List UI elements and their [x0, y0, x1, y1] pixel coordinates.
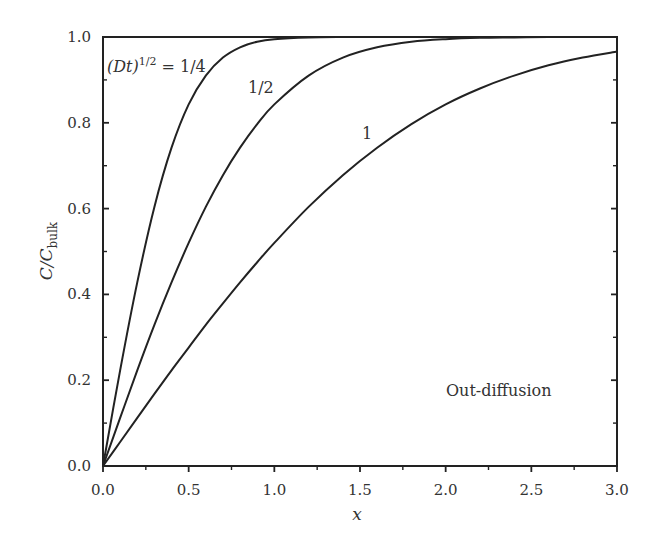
- out-diffusion-label: Out-diffusion: [446, 381, 552, 400]
- curve-label-one: 1: [362, 124, 372, 143]
- y-tick-label: 0.8: [67, 114, 91, 132]
- y-tick-label: 0.6: [67, 200, 91, 218]
- x-axis-label: x: [352, 504, 362, 524]
- curve-quarter: [103, 37, 617, 466]
- y-tick-label: 0.4: [67, 285, 91, 303]
- data-curves: [103, 37, 617, 466]
- axis-ticks: [103, 37, 617, 472]
- x-tick-label: 2.0: [434, 481, 458, 499]
- x-tick-label: 0.0: [91, 481, 115, 499]
- diffusion-profile-chart: 0.00.51.01.52.02.53.00.00.20.40.60.81.0 …: [0, 0, 658, 544]
- y-axis-label: C/Cbulk: [36, 221, 60, 280]
- curve-label-quarter: (Dt)1/2 = 1/4: [107, 55, 206, 76]
- svg-text:C/Cbulk: C/Cbulk: [36, 221, 60, 280]
- x-tick-label: 1.5: [348, 481, 372, 499]
- x-tick-label: 3.0: [605, 481, 629, 499]
- plot-frame: [103, 37, 617, 466]
- curve-label-half: 1/2: [248, 78, 274, 97]
- y-tick-label: 0.0: [67, 457, 91, 475]
- y-tick-label: 0.2: [67, 371, 91, 389]
- x-tick-label: 0.5: [177, 481, 201, 499]
- x-tick-label: 1.0: [262, 481, 286, 499]
- curve-one: [103, 52, 617, 466]
- y-tick-label: 1.0: [67, 28, 91, 46]
- x-tick-label: 2.5: [519, 481, 543, 499]
- curve-half: [103, 37, 617, 466]
- axis-tick-labels: 0.00.51.01.52.02.53.00.00.20.40.60.81.0: [67, 28, 629, 499]
